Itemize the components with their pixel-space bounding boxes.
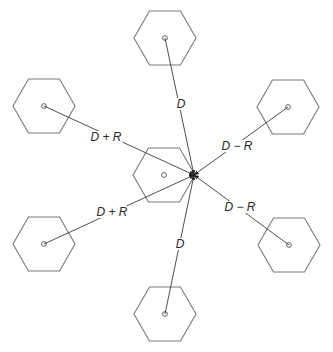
- label-lower-left-d-plus-r: D + R: [95, 206, 128, 218]
- label-upper-right-d-minus-r: D − R: [220, 140, 253, 152]
- hexagon-center-center-dot: [162, 173, 167, 178]
- hexagon-cells: [13, 11, 320, 341]
- label-lower-right-d-minus-r: D − R: [223, 201, 256, 213]
- label-upper-left-d-plus-r: D + R: [89, 131, 122, 143]
- label-bottom-d: D: [175, 238, 186, 250]
- label-top-d: D: [176, 98, 187, 110]
- diagram-canvas: [0, 0, 333, 352]
